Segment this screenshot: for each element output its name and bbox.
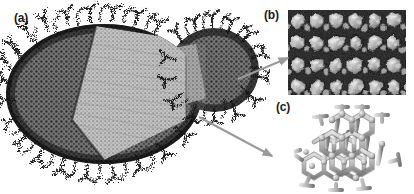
panel-a-nanoparticle-model: [0, 0, 270, 185]
panel-label-b: (b): [264, 9, 279, 21]
panel-label-c: (c): [276, 101, 290, 113]
figure-root: (a) (b) (c): [0, 0, 414, 194]
panel-b-micrograph: [288, 10, 406, 95]
panel-c-lattice: [294, 104, 406, 192]
panel-label-a: (a): [14, 12, 28, 24]
